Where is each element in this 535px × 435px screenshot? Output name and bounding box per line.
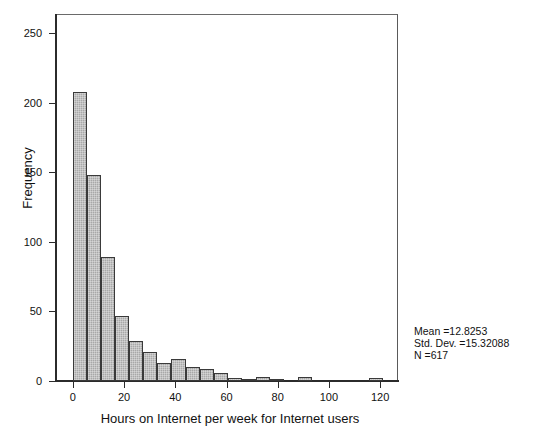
y-axis-tick (49, 33, 56, 34)
x-axis-tick (380, 381, 381, 388)
x-axis-tick-label: 80 (258, 391, 298, 403)
y-axis-tick (49, 381, 56, 382)
histogram-bar (115, 316, 129, 381)
y-axis-tick (49, 103, 56, 104)
x-axis-title: Hours on Internet per week for Internet … (0, 411, 460, 427)
histogram-bar (129, 341, 143, 381)
y-axis-tick (49, 311, 56, 312)
histogram-bar (242, 379, 256, 381)
histogram-bar (87, 175, 101, 381)
x-axis-tick-label: 20 (104, 391, 144, 403)
histogram-bar (186, 367, 200, 381)
std-dev-label: Std. Dev. =15.32088 (414, 338, 509, 350)
histogram-bar (214, 373, 228, 381)
x-axis-tick-label: 0 (53, 391, 93, 403)
histogram-bar (228, 378, 242, 381)
y-axis-tick (49, 242, 56, 243)
x-axis-tick-label: 60 (207, 391, 247, 403)
histogram-bar (157, 363, 171, 381)
y-axis-title: Frequency (20, 98, 36, 258)
y-axis-tick (49, 172, 56, 173)
bars-layer (55, 14, 398, 381)
statistics-annotation: Mean =12.8253 Std. Dev. =15.32088 N =617 (414, 326, 509, 361)
histogram-bar (101, 257, 115, 381)
x-axis-tick-label: 120 (360, 391, 400, 403)
n-label: N =617 (414, 350, 509, 362)
histogram-bar (171, 359, 185, 381)
x-axis-tick (227, 381, 228, 388)
x-axis-tick (278, 381, 279, 388)
y-axis-tick-label: 0 (2, 376, 42, 387)
y-axis-tick-label: 50 (2, 306, 42, 317)
y-axis-tick-label: 250 (2, 28, 42, 39)
x-axis-tick-label: 100 (309, 391, 349, 403)
x-axis-tick (329, 381, 330, 388)
histogram-bar (200, 369, 214, 382)
histogram-chart: 050100150200250 020406080100120 Frequenc… (0, 0, 535, 435)
x-axis-tick (175, 381, 176, 388)
x-axis-tick (73, 381, 74, 388)
x-axis-tick-label: 40 (155, 391, 195, 403)
histogram-bar (298, 377, 312, 381)
histogram-bar (143, 352, 157, 381)
x-axis-tick (124, 381, 125, 388)
histogram-bar (73, 92, 87, 381)
histogram-bar (256, 377, 270, 381)
